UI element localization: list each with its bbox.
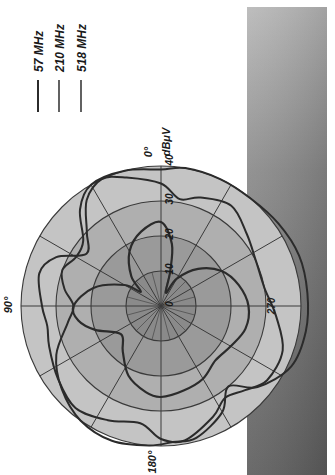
angle-label-270: 270 — [266, 297, 277, 315]
legend-item-210mhz: 210 MHz — [53, 24, 67, 112]
tick-label-0: 0 — [164, 301, 175, 307]
legend: 57 MHz 210 MHz 518 MHz — [32, 24, 89, 112]
legend-label: 57 MHz — [32, 31, 46, 72]
tick-label-30: 30 — [164, 193, 175, 205]
tick-label-10: 10 — [164, 263, 175, 275]
legend-label: 210 MHz — [53, 24, 67, 73]
legend-item-518mhz: 518 MHz — [75, 24, 89, 112]
angle-label-0: 0° — [142, 146, 154, 157]
angle-label-90: 90° — [2, 296, 14, 313]
legend-label: 518 MHz — [75, 24, 89, 72]
polar-chart: 010203040 0° dBμV 90° 180° 270 57 MHz 21… — [0, 0, 335, 475]
tick-label-20: 20 — [164, 228, 175, 241]
legend-item-57mhz: 57 MHz — [32, 31, 46, 112]
angle-label-180: 180° — [146, 450, 158, 473]
unit-label: dBμV — [160, 126, 172, 156]
